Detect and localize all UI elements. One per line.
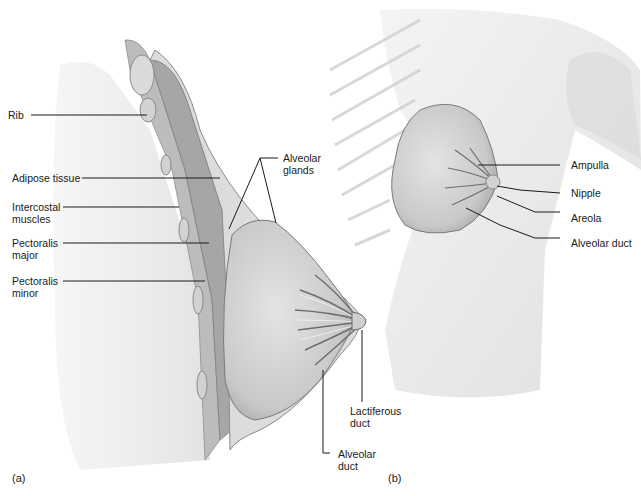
label-text: Pectoralis: [12, 275, 58, 287]
label-nipple: Nipple: [571, 187, 601, 199]
label-intercostal-muscles: Intercostal muscles: [12, 201, 60, 225]
label-text: Alveolar duct: [571, 237, 632, 249]
panel-b-view: [330, 9, 641, 398]
label-alveolar-duct-b: Alveolar duct: [571, 237, 632, 249]
panel-label-a: (a): [12, 472, 25, 484]
label-adipose-tissue: Adipose tissue: [12, 172, 80, 184]
label-areola: Areola: [571, 212, 601, 224]
panel-a-section: [53, 40, 366, 470]
label-text: Lactiferous: [350, 405, 401, 417]
label-text: Areola: [571, 212, 601, 224]
label-text: Pectoralis: [12, 237, 58, 249]
panel-label-b: (b): [388, 472, 401, 484]
breast-anatomy-illustration: [0, 0, 641, 496]
label-rib: Rib: [8, 109, 24, 121]
label-alveolar-duct-a: Alveolar duct: [338, 448, 376, 472]
label-text: duct: [350, 417, 401, 429]
label-text: Nipple: [571, 187, 601, 199]
label-text: Ampulla: [571, 159, 609, 171]
label-pectoralis-minor: Pectoralis minor: [12, 275, 58, 299]
label-text: glands: [283, 164, 321, 176]
label-lactiferous-duct: Lactiferous duct: [350, 405, 401, 429]
label-text: muscles: [12, 213, 60, 225]
label-ampulla: Ampulla: [571, 159, 609, 171]
label-text: Alveolar: [338, 448, 376, 460]
label-alveolar-glands: Alveolar glands: [283, 152, 321, 176]
label-text: minor: [12, 287, 58, 299]
label-pectoralis-major: Pectoralis major: [12, 237, 58, 261]
label-text: Rib: [8, 109, 24, 121]
label-text: duct: [338, 460, 376, 472]
label-text: Alveolar: [283, 152, 321, 164]
label-text: major: [12, 249, 58, 261]
label-text: Adipose tissue: [12, 172, 80, 184]
label-text: Intercostal: [12, 201, 60, 213]
